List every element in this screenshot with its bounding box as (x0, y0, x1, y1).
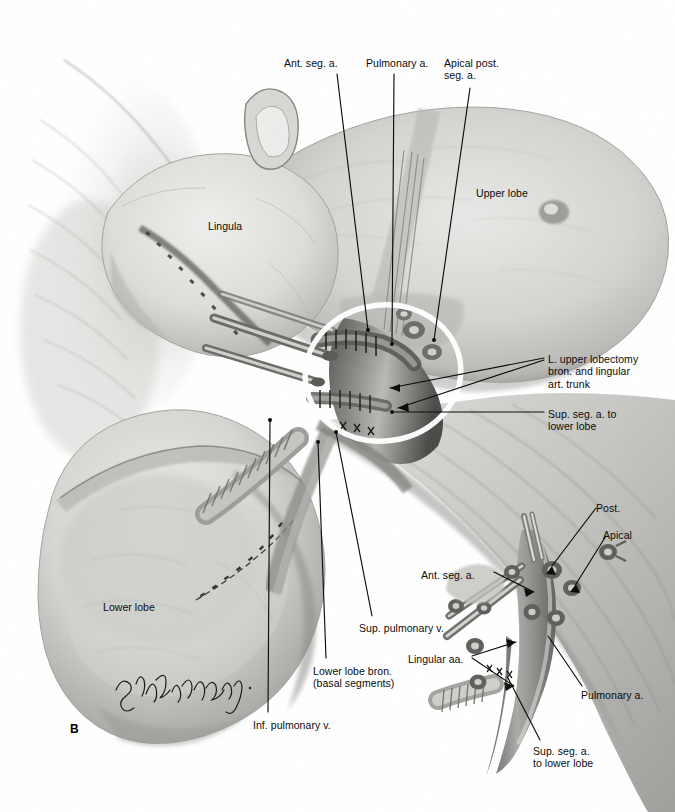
surgical-illustration-artwork (0, 0, 675, 812)
label-inf-pulmonary-v: Inf. pulmonary v. (253, 719, 331, 731)
label-lingula: Lingula (208, 220, 242, 232)
panel-letter: B (70, 722, 79, 736)
label-upper-lobectomy-trunk: L. upper lobectomy bron. and lingular ar… (548, 353, 638, 390)
label-inset-pulmonary-a: Pulmonary a. (581, 689, 643, 701)
label-lower-lobe-bronchus: Lower lobe bron. (basal segments) (313, 665, 394, 690)
label-sup-seg-a-to-lower-lobe: Sup. seg. a. to lower lobe (548, 408, 616, 433)
label-pulmonary-a-top: Pulmonary a. (366, 57, 428, 69)
label-lower-lobe: Lower lobe (103, 601, 155, 613)
label-inset-apical: Apical (603, 529, 632, 541)
label-sup-pulmonary-v: Sup. pulmonary v. (359, 622, 444, 634)
label-inset-ant-seg-a: Ant. seg. a. (421, 569, 475, 581)
label-upper-lobe: Upper lobe (476, 187, 528, 199)
label-inset-sup-seg-a: Sup. seg. a. to lower lobe (533, 745, 593, 770)
illustration-plate: Ant. seg. a. Pulmonary a. Apical post. s… (0, 0, 675, 812)
label-apical-post-seg-a: Apical post. seg. a. (444, 57, 499, 82)
label-inset-lingular-aa: Lingular aa. (408, 653, 463, 665)
label-inset-post: Post. (596, 502, 620, 514)
label-ant-seg-a-top: Ant. seg. a. (284, 57, 338, 69)
